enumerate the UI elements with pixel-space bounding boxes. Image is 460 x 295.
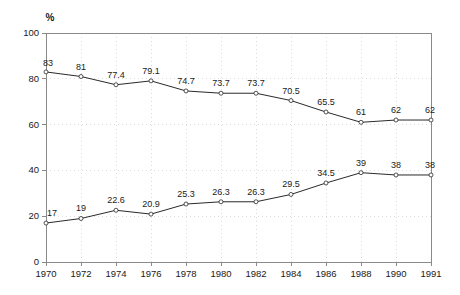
y-tick-label: 20 [28, 210, 39, 221]
data-point-marker [394, 173, 398, 177]
y-tick-label: 100 [23, 27, 39, 38]
data-point-label: 26.3 [247, 187, 265, 197]
data-point-label: 62 [391, 105, 401, 115]
data-point-label: 19 [76, 203, 86, 213]
x-tick-label: 1988 [350, 268, 371, 279]
y-tick-label: 80 [28, 73, 39, 84]
data-point-label: 61 [356, 107, 366, 117]
x-tick-label: 1990 [385, 268, 406, 279]
y-tick-label: 0 [34, 256, 39, 267]
data-point-label: 83 [43, 58, 53, 68]
x-tick-label: 1972 [70, 268, 91, 279]
data-point-marker [44, 221, 48, 225]
data-point-label: 25.3 [177, 189, 195, 199]
data-point-label: 17 [47, 208, 57, 218]
data-point-marker [289, 99, 293, 103]
chart-background [0, 0, 460, 295]
x-tick-label: 1991 [420, 268, 441, 279]
data-point-label: 29.5 [282, 179, 300, 189]
data-point-marker [254, 91, 258, 95]
y-tick-label: 60 [28, 119, 39, 130]
data-point-label: 39 [356, 158, 366, 168]
data-point-marker [429, 118, 433, 122]
data-point-marker [184, 89, 188, 93]
data-point-marker [79, 216, 83, 220]
data-point-label: 65.5 [317, 97, 335, 107]
y-tick-label: 40 [28, 164, 39, 175]
data-point-label: 74.7 [177, 76, 195, 86]
x-tick-label: 1978 [175, 268, 196, 279]
chart-canvas: 020406080100 197019721974197619781980198… [0, 0, 460, 295]
data-point-marker [359, 120, 363, 124]
data-point-label: 70.5 [282, 86, 300, 96]
data-point-label: 77.4 [107, 70, 125, 80]
data-point-label: 73.7 [247, 78, 265, 88]
data-point-marker [149, 79, 153, 83]
data-point-label: 22.6 [107, 195, 125, 205]
x-tick-label: 1984 [280, 268, 301, 279]
data-point-label: 79.1 [142, 66, 160, 76]
x-tick-label: 1976 [140, 268, 161, 279]
data-point-label: 81 [76, 62, 86, 72]
data-point-marker [184, 202, 188, 206]
x-tick-label: 1986 [315, 268, 336, 279]
data-point-marker [114, 208, 118, 212]
data-point-marker [359, 171, 363, 175]
data-point-label: 34.5 [317, 168, 335, 178]
x-tick-label: 1982 [245, 268, 266, 279]
data-point-marker [114, 83, 118, 87]
data-point-marker [324, 110, 328, 114]
data-point-marker [429, 173, 433, 177]
data-point-marker [289, 192, 293, 196]
data-point-marker [44, 70, 48, 74]
data-point-label: 38 [425, 160, 435, 170]
data-point-marker [324, 181, 328, 185]
x-tick-label: 1970 [35, 268, 56, 279]
data-point-marker [149, 212, 153, 216]
data-point-marker [79, 75, 83, 79]
data-point-marker [254, 200, 258, 204]
data-point-label: 26.3 [212, 187, 230, 197]
data-point-marker [219, 200, 223, 204]
x-tick-label: 1980 [210, 268, 231, 279]
data-point-label: 38 [391, 160, 401, 170]
data-point-label: 62 [425, 105, 435, 115]
line-chart: 020406080100 197019721974197619781980198… [0, 0, 460, 295]
data-point-marker [394, 118, 398, 122]
y-axis-unit-label: % [46, 12, 55, 23]
data-point-marker [219, 91, 223, 95]
data-point-label: 20.9 [142, 199, 160, 209]
data-point-label: 73.7 [212, 78, 230, 88]
x-tick-label: 1974 [105, 268, 126, 279]
